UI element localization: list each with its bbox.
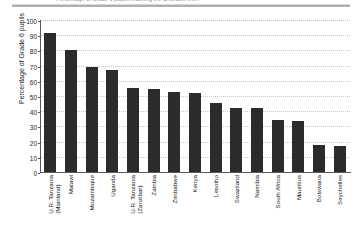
x-tick-label-text: U.R. Tanzania(Mainland) <box>48 175 61 214</box>
bar <box>210 103 222 172</box>
x-tick-label: U.R. Tanzania(Zanzibar) <box>127 173 139 237</box>
x-tick-label-text: Seychelles <box>337 175 344 205</box>
x-tick-label: Uganda <box>106 173 118 237</box>
x-tick-label-text: Malawi <box>68 175 75 194</box>
bar <box>251 108 263 172</box>
x-tick-label: Malawi <box>65 173 77 237</box>
title-divider-rule <box>12 4 350 7</box>
bar <box>189 93 201 172</box>
x-tick-label: Lesotho <box>210 173 222 237</box>
bar <box>230 108 242 172</box>
x-tick-label-text: U.R. Tanzania(Zanzibar) <box>130 175 143 214</box>
bar <box>44 33 56 172</box>
x-tick-label: Seychelles <box>334 173 346 237</box>
x-tick-label-text: Kenya <box>192 175 199 193</box>
x-tick-label-text: Zimbabwe <box>172 175 179 204</box>
x-tick-label-text: Uganda <box>110 175 117 197</box>
bar <box>86 67 98 172</box>
x-tick-label: Kenya <box>189 173 201 237</box>
bar <box>272 120 284 172</box>
bar <box>65 50 77 172</box>
x-tick-label-text: South Africa <box>275 175 282 208</box>
y-axis-title: Percentage of Grade 6 pupils <box>17 0 26 129</box>
bar <box>148 89 160 172</box>
x-tick-label: Mauritius <box>292 173 304 237</box>
x-tick-label: South Africa <box>272 173 284 237</box>
x-tick-label-text: Namibia <box>254 175 261 198</box>
bar <box>292 121 304 172</box>
x-tick-label-text: Zambia <box>151 175 158 196</box>
x-tick-label-text: Mozambique <box>89 175 96 210</box>
y-axis-line <box>40 20 41 173</box>
plot-area: 0102030405060708090100 <box>40 20 350 172</box>
y-tick-label-50: 50 <box>30 94 37 101</box>
x-tick-label: U.R. Tanzania(Mainland) <box>44 173 56 237</box>
y-tick-label-90: 90 <box>30 33 37 40</box>
x-tick-label-text: Mauritius <box>296 175 303 200</box>
bar <box>127 88 139 172</box>
y-tick-label-10: 10 <box>30 154 37 161</box>
x-tick-label-text: Lesotho <box>213 175 220 197</box>
x-tick-label: Swaziland <box>230 173 242 237</box>
y-tick-label-100: 100 <box>26 18 37 25</box>
y-tick-label-40: 40 <box>30 109 37 116</box>
y-tick-label-0: 0 <box>33 170 37 177</box>
y-tick-label-70: 70 <box>30 63 37 70</box>
x-tick-label-text: Swaziland <box>234 175 241 203</box>
x-tick-label: Mozambique <box>86 173 98 237</box>
x-tick-label: Namibia <box>251 173 263 237</box>
bar <box>313 145 325 172</box>
x-tick-label: Zimbabwe <box>168 173 180 237</box>
figure-bar-chart: Percentage of Grade 6 pupils reaching th… <box>0 0 358 240</box>
figure-title: Percentage of Grade 6 pupils reaching th… <box>56 0 199 2</box>
bar-series <box>40 20 350 172</box>
y-tick-label-80: 80 <box>30 48 37 55</box>
bar <box>168 92 180 172</box>
bar <box>334 146 346 172</box>
y-tick-label-60: 60 <box>30 78 37 85</box>
x-tick-label-text: Botswana <box>316 175 323 202</box>
y-tick-label-30: 30 <box>30 124 37 131</box>
bar <box>106 70 118 172</box>
x-axis-tick-labels: U.R. Tanzania(Mainland)MalawiMozambiqueU… <box>40 173 350 240</box>
x-tick-label: Zambia <box>148 173 160 237</box>
x-tick-label: Botswana <box>313 173 325 237</box>
y-tick-label-20: 20 <box>30 139 37 146</box>
